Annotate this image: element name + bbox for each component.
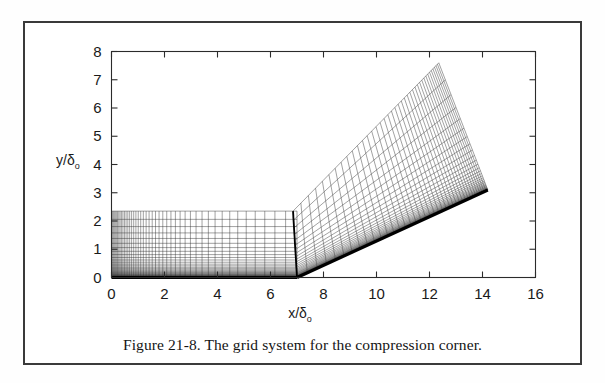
x-tick-label: 0 [107, 285, 115, 302]
ramp-mesh [293, 63, 488, 278]
y-tick-label: 0 [93, 269, 101, 286]
x-tick-label: 2 [160, 285, 168, 302]
figure-caption: Figure 21-8. The grid system for the com… [23, 336, 582, 354]
y-axis-title: y/δo [56, 152, 80, 171]
y-tick-label: 1 [93, 240, 101, 257]
x-axis-title: x/δo [288, 305, 312, 324]
x-tick-label: 8 [319, 285, 327, 302]
y-tick-label: 4 [93, 156, 101, 173]
y-tick-label: 6 [93, 99, 101, 116]
figure-page: 0246810121416 012345678 y/δo x/δo Figure… [0, 0, 605, 383]
grid-plot-svg: 0246810121416 012345678 y/δo x/δo [0, 0, 605, 383]
flat-plate-mesh [112, 211, 298, 277]
x-tick-labels: 0246810121416 [107, 285, 544, 302]
x-tick-label: 14 [474, 285, 491, 302]
x-tick-label: 4 [213, 285, 221, 302]
y-tick-label: 3 [93, 184, 101, 201]
y-tick-label: 5 [93, 127, 101, 144]
y-tick-label: 8 [93, 43, 101, 60]
x-tick-label: 10 [368, 285, 385, 302]
plot-area: 0246810121416 012345678 y/δo x/δo [0, 0, 605, 383]
y-tick-labels: 012345678 [93, 43, 101, 286]
x-tick-label: 6 [266, 285, 274, 302]
y-tick-label: 7 [93, 71, 101, 88]
y-tick-label: 2 [93, 212, 101, 229]
x-tick-label: 16 [527, 285, 544, 302]
x-tick-label: 12 [421, 285, 438, 302]
